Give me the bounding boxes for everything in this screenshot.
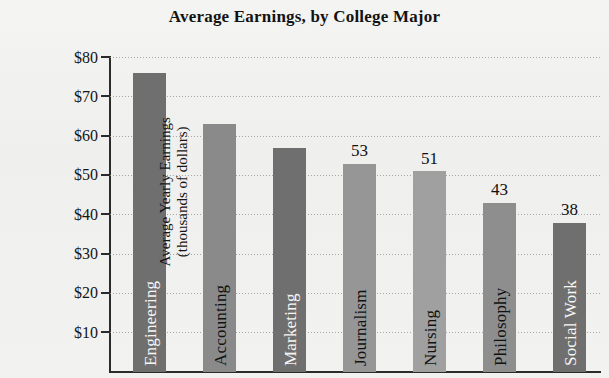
y-axis-title-line1: Average Yearly Earnings [157,62,174,322]
y-axis-tick-label: $20 [52,285,98,301]
y-axis-tick [101,56,110,58]
bar: Philosophy [483,203,516,372]
y-axis-tick-label: $10 [52,325,98,341]
y-axis-tick [101,331,110,333]
y-axis-tick [101,292,110,294]
gridline [110,57,601,58]
bar-category-label: Marketing [281,293,298,366]
y-axis-tick-label: $60 [52,128,98,144]
bar-value-label: 38 [543,201,596,218]
y-axis-tick-label: $70 [52,89,98,105]
bar-category-label: Engineering [141,281,158,366]
bar: Accounting [203,124,236,372]
y-axis-tick [101,213,110,215]
bar: Social Work [553,223,586,372]
y-axis-tick [101,253,110,255]
bar-category-label: Accounting [211,285,228,366]
y-axis-tick [101,135,110,137]
y-axis-tick-label: $80 [52,50,98,66]
y-axis-tick [101,174,110,176]
chart-title: Average Earnings, by College Major [0,7,609,27]
bar-category-label: Philosophy [491,287,508,366]
bar: Nursing [413,171,446,372]
bar-value-label: 51 [403,150,456,167]
bar-category-label: Social Work [561,280,578,366]
y-axis-tick-label: $40 [52,207,98,223]
y-axis-title: Average Yearly Earnings (thousands of do… [157,62,191,322]
bar-category-label: Nursing [421,310,438,366]
y-axis-tick [101,95,110,97]
y-axis-tick-label: $50 [52,167,98,183]
bar: Marketing [273,148,306,372]
bar-value-label: 43 [473,181,526,198]
plot-area: EngineeringAccountingMarketingJournalism… [110,57,601,372]
y-axis-title-line2: (thousands of dollars) [174,62,191,322]
y-axis-tick-label: $30 [52,246,98,262]
bar-category-label: Journalism [351,289,368,366]
bar-value-label: 53 [333,142,386,159]
bar: Journalism [343,164,376,372]
